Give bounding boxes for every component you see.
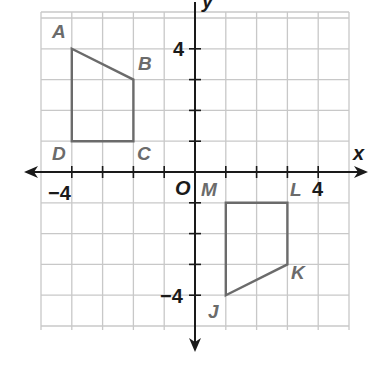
vertex-label-j: J <box>208 301 219 322</box>
vertex-label-a: A <box>51 21 66 42</box>
x-tick-neg4: −4 <box>48 182 72 204</box>
vertex-label-b: B <box>138 53 152 74</box>
x-tick-pos4: 4 <box>312 178 324 200</box>
vertex-label-k: K <box>291 262 306 283</box>
coordinate-plane: x y O −4 4 4 −4 A B C D J K L M <box>0 0 380 383</box>
y-tick-pos4: 4 <box>173 38 185 60</box>
x-axis-label: x <box>352 142 365 164</box>
y-axis-label: y <box>201 0 214 12</box>
y-tick-neg4: −4 <box>160 285 184 307</box>
vertex-label-m: M <box>201 179 218 200</box>
origin-label: O <box>175 177 191 199</box>
vertex-label-c: C <box>137 143 151 164</box>
vertex-label-d: D <box>52 143 66 164</box>
vertex-label-l: L <box>290 179 302 200</box>
